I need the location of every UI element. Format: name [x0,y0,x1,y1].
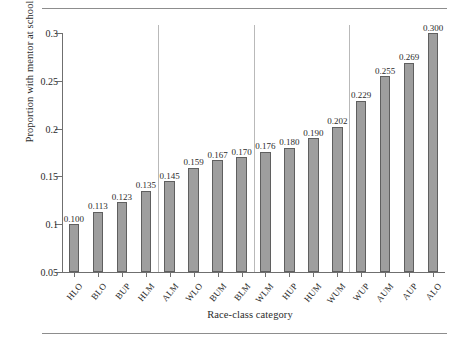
category-label: WLO [183,281,204,304]
category-label: AUP [400,281,420,302]
category-label: HUM [302,281,324,304]
group-separator [349,25,350,272]
x-tick-mark [98,272,99,277]
x-tick-mark [289,272,290,277]
x-tick-mark [194,272,195,277]
bar: 0.145 [164,181,175,272]
bar-value-label: 0.255 [375,66,395,76]
category-label: ALO [424,281,444,302]
bar-value-label: 0.176 [255,141,275,151]
bar: 0.269 [404,63,415,272]
x-tick-mark [313,272,314,277]
y-tick-label: 0.1 [46,219,59,230]
bar: 0.167 [212,160,223,272]
bar: 0.100 [69,224,80,272]
bar-value-label: 0.113 [88,201,108,211]
category-label: BLO [89,281,109,302]
bar-value-label: 0.100 [64,214,84,224]
bar: 0.255 [380,76,391,272]
y-tick-label: 0.05 [41,267,59,278]
x-tick-mark [265,272,266,277]
y-tick-label: 0.15 [41,171,59,182]
bar-value-label: 0.123 [112,192,132,202]
bar: 0.202 [332,127,343,272]
category-label: AUM [374,281,396,304]
category-label: WUM [325,281,348,306]
category-label: WUP [351,281,372,303]
bottom-rule [42,333,447,334]
group-separator [254,25,255,272]
bar: 0.176 [260,152,271,272]
bar: 0.170 [236,157,247,272]
bar-value-label: 0.167 [207,150,227,160]
bar-value-label: 0.229 [351,90,371,100]
bar: 0.159 [188,168,199,272]
x-tick-mark [218,272,219,277]
x-tick-mark [170,272,171,277]
y-axis-title: Proportion with mentor at school [24,0,35,187]
bar: 0.300 [428,33,439,272]
bar-value-label: 0.180 [279,137,299,147]
bar-value-label: 0.269 [399,52,419,62]
bar-value-label: 0.300 [423,23,443,33]
category-label: HLO [65,281,85,302]
bar: 0.135 [141,191,152,272]
x-tick-mark [337,272,338,277]
y-tick-label: 0.3 [46,28,59,39]
bar-value-label: 0.170 [231,147,251,157]
bar: 0.229 [356,101,367,272]
x-axis-title: Race-class category [60,309,440,320]
x-tick-mark [242,272,243,277]
x-axis-line [62,272,445,273]
y-tick-label: 0.2 [46,123,59,134]
plot-area: 0.050.10.150.20.250.30.100HLO0.113BLO0.1… [62,33,445,272]
category-label: HLM [136,281,157,303]
category-label: ALM [159,281,180,303]
category-label: BUP [113,281,132,301]
category-label: BLM [232,281,253,303]
bar: 0.190 [308,138,319,272]
bar: 0.123 [117,202,128,272]
x-tick-mark [433,272,434,277]
x-tick-mark [122,272,123,277]
x-tick-mark [409,272,410,277]
top-rule [42,8,447,9]
bar-value-label: 0.190 [303,128,323,138]
bar-value-label: 0.135 [136,180,156,190]
category-label: HUP [280,281,300,302]
group-separator [158,25,159,272]
bar-value-label: 0.159 [184,157,204,167]
x-tick-mark [146,272,147,277]
x-tick-mark [74,272,75,277]
x-tick-mark [385,272,386,277]
category-label: BUM [207,281,228,304]
chart-figure: Proportion with mentor at school Race-cl… [0,0,457,345]
y-axis-line [62,33,63,272]
bar-value-label: 0.145 [160,171,180,181]
category-label: WLM [254,281,276,305]
y-tick-label: 0.25 [41,75,59,86]
bar: 0.180 [284,148,295,272]
x-tick-mark [361,272,362,277]
bar: 0.113 [93,212,104,272]
bar-value-label: 0.202 [327,116,347,126]
